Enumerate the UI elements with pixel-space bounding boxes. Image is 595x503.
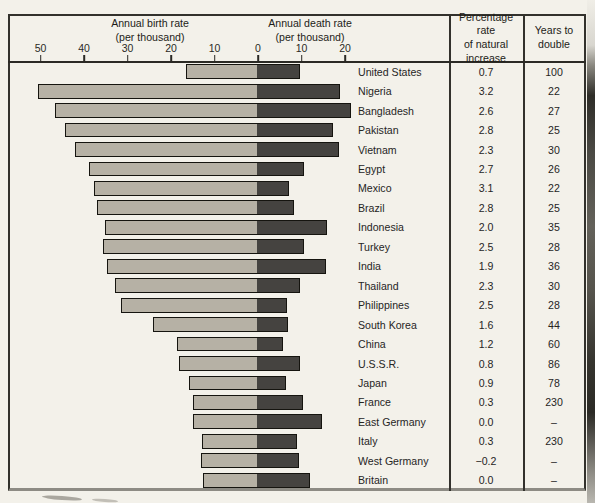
country-label: Brazil [358, 198, 446, 217]
years-column-header: Years to double [524, 16, 584, 60]
country-label: France [358, 393, 446, 412]
death-rate-bar [257, 338, 282, 351]
rate-bar [105, 220, 327, 235]
increase-value: 2.7 [449, 159, 523, 178]
rate-bar [97, 200, 294, 215]
rate-bar [193, 395, 303, 410]
rate-bar [177, 337, 283, 352]
death-rate-bar [257, 474, 309, 487]
rate-bar [103, 239, 304, 254]
death-rate-bar [257, 396, 302, 409]
axis-tick-mark [257, 55, 259, 62]
country-label: Indonesia [358, 218, 446, 237]
years-value: 27 [523, 101, 585, 120]
increase-value: 0.3 [449, 393, 523, 412]
death-rate-bar [257, 143, 337, 156]
years-value: 35 [523, 218, 585, 237]
increase-value: 2.3 [449, 140, 523, 159]
increase-value: 0.9 [449, 373, 523, 392]
axis-tick-label: 10 [209, 42, 221, 54]
years-value: 25 [523, 120, 585, 139]
increase-value: 2.5 [449, 295, 523, 314]
increase-value: 3.2 [449, 81, 523, 100]
years-value: 28 [523, 295, 585, 314]
country-label: China [358, 334, 446, 353]
death-rate-bar [257, 104, 350, 117]
increase-value: 1.6 [449, 315, 523, 334]
years-value: 26 [523, 159, 585, 178]
rate-bar [202, 434, 298, 449]
country-label: U.S.S.R. [358, 354, 446, 373]
country-label: South Korea [358, 315, 446, 334]
rate-bar [201, 453, 299, 468]
rate-bar [179, 356, 301, 371]
birth-rate-bar [104, 240, 257, 253]
rate-bar [55, 103, 351, 118]
death-axis-title: Annual death rate (per thousand) [268, 17, 352, 44]
axis-tick-label: 0 [255, 42, 261, 54]
axis-tick-mark [83, 55, 85, 62]
country-label: Turkey [358, 237, 446, 256]
scanned-chart-page: Annual birth rate (per thousand) Annual … [0, 0, 595, 503]
years-value: 100 [523, 62, 585, 81]
death-rate-bar [257, 163, 303, 176]
increase-value: 0.7 [449, 62, 523, 81]
death-rate-bar [257, 357, 299, 370]
death-rate-bar [257, 318, 287, 331]
death-rate-bar [257, 299, 285, 312]
increase-value: 2.5 [449, 237, 523, 256]
years-value: 22 [523, 81, 585, 100]
increase-column-header-text: Percentage rate of natural increase [450, 11, 522, 65]
axis-tick-mark [214, 55, 216, 62]
birth-rate-bar [122, 299, 257, 312]
increase-value: 0.3 [449, 432, 523, 451]
years-column-header-text: Years to double [535, 24, 573, 51]
rate-bar [75, 142, 339, 157]
birth-rate-bar [66, 124, 257, 137]
years-value: 30 [523, 140, 585, 159]
years-value: 36 [523, 257, 585, 276]
country-label: Egypt [358, 159, 446, 178]
birth-rate-bar [108, 260, 258, 273]
increase-value: 0.0 [449, 412, 523, 431]
axis-tick-label: 40 [78, 42, 90, 54]
increase-value: 2.0 [449, 218, 523, 237]
death-rate-bar [257, 435, 296, 448]
rate-bar [203, 473, 310, 488]
birth-rate-bar [180, 357, 258, 370]
country-label: Italy [358, 432, 446, 451]
birth-rate-bar [76, 143, 258, 156]
years-value: 86 [523, 354, 585, 373]
birth-rate-bar [106, 221, 258, 234]
death-rate-bar [257, 454, 297, 467]
axis-tick-label: 30 [122, 42, 134, 54]
death-rate-bar [257, 279, 299, 292]
rate-bar [121, 298, 286, 313]
years-value: – [523, 412, 585, 431]
birth-rate-bar [95, 182, 258, 195]
birth-rate-bar [204, 474, 257, 487]
birth-rate-bar [154, 318, 257, 331]
death-rate-bar [257, 124, 332, 137]
death-rate-bar [257, 415, 320, 428]
increase-value: 1.2 [449, 334, 523, 353]
increase-value: 2.8 [449, 198, 523, 217]
birth-rate-bar [203, 435, 258, 448]
years-value: 78 [523, 373, 585, 392]
birth-rate-bar [190, 377, 258, 390]
years-value: 230 [523, 393, 585, 412]
birth-rate-bar [202, 454, 257, 467]
country-label: Philippines [358, 295, 446, 314]
birth-rate-bar [187, 65, 257, 78]
rate-bar [65, 123, 333, 138]
increase-column-header: Percentage rate of natural increase [450, 16, 522, 60]
death-rate-bar [257, 65, 298, 78]
birth-rate-bar [178, 338, 258, 351]
increase-value: 0.8 [449, 354, 523, 373]
country-label: Vietnam [358, 140, 446, 159]
birth-rate-bar [194, 415, 257, 428]
country-label: India [358, 257, 446, 276]
axis-tick-mark [301, 55, 303, 62]
axis-tick-mark [40, 55, 42, 62]
increase-value: 1.9 [449, 257, 523, 276]
